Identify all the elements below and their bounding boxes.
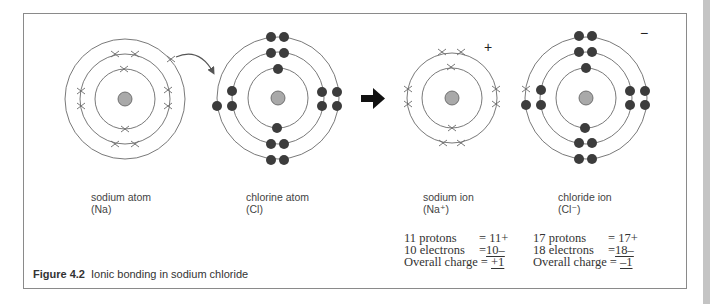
sodium-ion-label: sodium ion (Na⁺) — [423, 191, 474, 215]
electron-transfer-arrow-icon — [176, 54, 213, 72]
negative-charge-sign: − — [640, 25, 648, 41]
ion-symbol: (Na⁺) — [423, 203, 474, 215]
nucleus — [271, 91, 285, 105]
atom-name: chlorine atom — [246, 191, 309, 203]
chloride-ion-label: chloride ion (Cl⁻) — [558, 191, 612, 215]
sodium-atom-label: sodium atom (Na) — [91, 191, 151, 215]
chlorine-atom-label: chlorine atom (Cl) — [246, 191, 309, 215]
reaction-arrow-icon — [361, 88, 385, 109]
chloride-ion-charge-calc: 17 protons= 17+ 18 electrons= 18– Overal… — [533, 232, 638, 268]
overall-charge-label: Overall charge — [404, 256, 478, 268]
electron-cross-icon — [164, 103, 172, 109]
positive-charge-sign: + — [484, 39, 492, 55]
nucleus — [118, 92, 132, 106]
overall-charge-value: +1 — [491, 256, 504, 268]
chloride-ion-model — [521, 31, 650, 164]
electron-cross-icon — [131, 51, 139, 57]
electron-dot-icon — [272, 123, 282, 133]
electron-dot-icon — [273, 64, 283, 74]
atom-name: sodium atom — [91, 191, 151, 203]
electron-cross-icon — [164, 87, 172, 93]
figure-number: Figure 4.2 — [33, 268, 85, 280]
sodium-atom-model — [65, 39, 185, 159]
sodium-ion-charge-calc: 11 protons= 11+ 10 electrons= 10– Overal… — [404, 232, 508, 268]
sodium-ion-model — [404, 49, 500, 146]
equals-sign: = — [607, 256, 620, 268]
electron-cross-icon — [111, 51, 119, 57]
electron-cross-icon — [131, 141, 139, 147]
nucleus — [445, 91, 459, 105]
overall-charge-value: –1 — [620, 256, 633, 268]
ion-symbol: (Cl⁻) — [558, 203, 612, 215]
nucleus — [579, 91, 593, 105]
atom-symbol: (Na) — [91, 203, 151, 215]
atom-symbol: (Cl) — [246, 203, 309, 215]
electron-cross-icon — [111, 141, 119, 147]
overall-charge-label: Overall charge — [533, 256, 607, 268]
equals-sign: = — [478, 256, 491, 268]
ion-name: chloride ion — [558, 191, 612, 203]
ion-name: sodium ion — [423, 191, 474, 203]
chlorine-atom-model — [212, 32, 342, 165]
figure-caption: Figure 4.2Ionic bonding in sodium chlori… — [33, 268, 248, 280]
figure-title: Ionic bonding in sodium chloride — [91, 268, 248, 280]
